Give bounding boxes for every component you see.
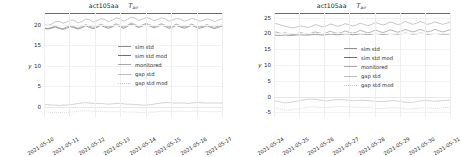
x-axis-tick-label: 2021-05-31 — [432, 136, 460, 157]
legend-item-label: sim std mod — [135, 53, 167, 59]
chart-title-subscript-left: air — [132, 5, 138, 10]
y-axis-label: y — [258, 62, 261, 68]
legend-swatch-icon — [344, 76, 357, 77]
x-axis-tick-label: 2021-05-11 — [52, 136, 80, 157]
series-line-monitored — [274, 22, 450, 28]
y-axis-tick-label: 10 — [34, 63, 41, 69]
x-axis-tick-label: 2021-05-13 — [103, 136, 131, 157]
gridline-horizontal — [274, 97, 450, 98]
legend-item[interactable]: sim std — [344, 44, 394, 53]
legend-swatch-icon — [344, 85, 357, 86]
gridline-horizontal — [274, 112, 450, 113]
series-line-gap-std-mod — [274, 107, 450, 110]
x-axis-tick-label: 2021-05-26 — [307, 136, 335, 157]
gridline-vertical — [44, 13, 45, 117]
gridline-vertical — [171, 13, 172, 117]
y-axis-tick-label: -5 — [265, 109, 271, 115]
chart-title-text-left: act105aa — [89, 2, 119, 9]
gridline-horizontal — [44, 107, 222, 108]
legend-item-label: sim std — [361, 46, 380, 52]
legend-right: sim stdsim std modmonitoredgap stdgap st… — [344, 44, 394, 90]
legend-swatch-icon — [344, 48, 357, 49]
x-axis-tick-label: 2021-05-14 — [128, 136, 156, 157]
gridline-horizontal — [44, 25, 222, 26]
x-axis-tick-label: 2021-05-25 — [282, 136, 310, 157]
chart-title-text-right: act105aa — [317, 2, 347, 9]
x-axis-tick-label: 2021-05-30 — [407, 136, 435, 157]
gridline-vertical — [425, 13, 426, 117]
legend-item-label: gap std — [361, 73, 380, 79]
legend-item-label: gap std — [135, 71, 154, 77]
gridline-horizontal — [274, 18, 450, 19]
legend-item[interactable]: sim std — [118, 42, 168, 51]
legend-item[interactable]: sim std mod — [344, 53, 394, 62]
legend-left: sim stdsim std modmonitoredgap stdgap st… — [118, 42, 168, 88]
legend-swatch-icon — [118, 55, 131, 56]
legend-swatch-icon — [118, 64, 131, 65]
legend-item[interactable]: monitored — [344, 62, 394, 71]
chart-panel-right: act105aaTair -50510152025y2021-05-242021… — [228, 0, 455, 151]
legend-swatch-icon — [118, 74, 131, 75]
gridline-vertical — [69, 13, 70, 117]
chart-title-subscript-right: air — [360, 5, 366, 10]
legend-item[interactable]: gap std mod — [118, 79, 168, 88]
gridline-vertical — [450, 13, 451, 117]
chart-title-left: act105aaTair — [0, 2, 227, 10]
legend-swatch-icon — [344, 66, 357, 67]
y-axis-label: y — [28, 63, 31, 69]
legend-item[interactable]: gap std mod — [344, 81, 394, 90]
chart-panel-left: act105aaTair 05101520y2021-05-102021-05-… — [0, 0, 227, 151]
gridline-vertical — [299, 13, 300, 117]
y-axis-tick-label: 20 — [34, 22, 41, 28]
y-axis-tick-label: 5 — [37, 83, 41, 89]
x-axis-tick-label: 2021-05-16 — [179, 136, 207, 157]
y-axis-tick-label: 25 — [264, 15, 271, 21]
x-axis-tick-label: 2021-05-12 — [77, 136, 105, 157]
y-axis-tick-label: 10 — [264, 62, 271, 68]
y-axis-tick-label: 5 — [267, 78, 271, 84]
x-axis-tick-label: 2021-05-28 — [357, 136, 385, 157]
gridline-vertical — [400, 13, 401, 117]
legend-item-label: sim std — [135, 44, 154, 50]
legend-item[interactable]: sim std mod — [118, 51, 168, 60]
gridline-vertical — [324, 13, 325, 117]
legend-item[interactable]: gap std — [118, 70, 168, 79]
y-axis-tick-label: 0 — [37, 104, 41, 110]
x-axis-tick-label: 2021-05-10 — [26, 136, 54, 157]
legend-swatch-icon — [344, 57, 357, 58]
legend-item-label: sim std mod — [361, 55, 393, 61]
y-axis-tick-label: 20 — [264, 30, 271, 36]
chart-title-right: act105aaTair — [228, 2, 455, 10]
y-axis-tick-label: 0 — [267, 94, 271, 100]
gridline-vertical — [197, 13, 198, 117]
x-axis-tick-label: 2021-05-15 — [154, 136, 182, 157]
legend-item-label: monitored — [361, 64, 388, 70]
gridline-vertical — [274, 13, 275, 117]
series-line-gap-std-mod — [44, 111, 222, 113]
series-line-gap-std — [44, 103, 222, 106]
y-axis-tick-label: 15 — [34, 42, 41, 48]
x-axis-tick-label: 2021-05-27 — [332, 136, 360, 157]
legend-item-label: gap std mod — [361, 82, 394, 88]
gridline-vertical — [222, 13, 223, 117]
legend-item[interactable]: monitored — [118, 60, 168, 69]
series-line-gap-std — [274, 99, 450, 103]
gridline-vertical — [95, 13, 96, 117]
x-axis-tick-label: 2021-05-29 — [382, 136, 410, 157]
legend-item-label: monitored — [135, 62, 162, 68]
legend-item[interactable]: gap std — [344, 72, 394, 81]
legend-swatch-icon — [118, 46, 131, 47]
gridline-horizontal — [274, 33, 450, 34]
x-axis-tick-label: 2021-05-24 — [256, 136, 284, 157]
legend-swatch-icon — [118, 83, 131, 84]
y-axis-tick-label: 15 — [264, 46, 271, 52]
legend-item-label: gap std mod — [135, 80, 168, 86]
